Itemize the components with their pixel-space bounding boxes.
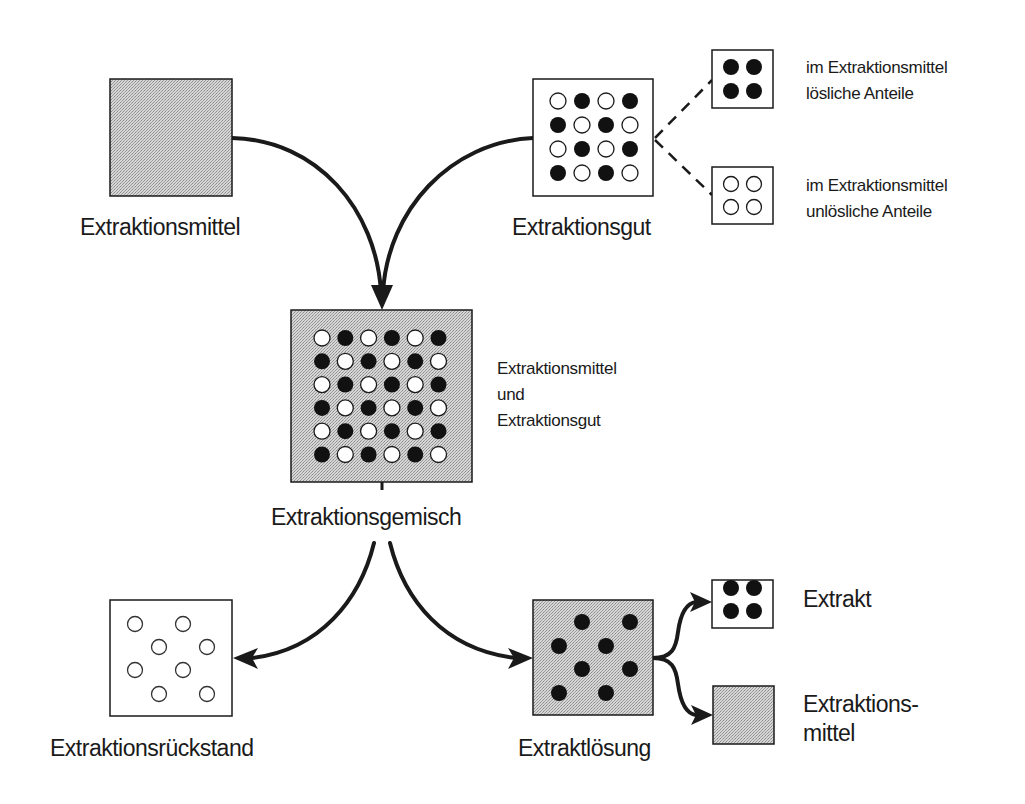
soluble-particle — [407, 400, 423, 416]
insoluble-particle — [361, 330, 377, 346]
insoluble-particle — [384, 447, 400, 463]
soluble-particle — [361, 400, 377, 416]
insoluble-particle — [361, 377, 377, 393]
insoluble-box — [712, 167, 773, 224]
extract-label: Extrakt — [803, 588, 871, 611]
soluble-particle — [574, 141, 590, 157]
insoluble-particle — [431, 447, 447, 463]
insoluble-particle — [337, 447, 353, 463]
arrow-feed-to-mixture — [383, 138, 533, 292]
dashed-line-insoluble — [655, 140, 712, 195]
insoluble-particle — [407, 377, 423, 393]
insoluble-particle — [337, 400, 353, 416]
extract-box — [712, 580, 773, 628]
feed-label: Extraktionsgut — [512, 216, 651, 239]
mixture-note-line3: Extraktionsgut — [497, 408, 617, 434]
insoluble-particle — [598, 141, 614, 157]
arrow-solution-to-solvent — [653, 658, 696, 715]
soluble-particle — [407, 447, 423, 463]
insoluble-particle — [314, 330, 330, 346]
solvent-label: Extraktionsmittel — [80, 216, 240, 239]
arrow-solvent-to-mixture — [232, 138, 381, 292]
solvent-box — [110, 79, 232, 196]
insoluble-particle — [337, 353, 353, 369]
recovered-solvent-box — [713, 686, 774, 744]
soluble-particle — [361, 447, 377, 463]
insoluble-particle — [574, 117, 590, 133]
soluble-particle — [431, 423, 447, 439]
residue-label: Extraktionsrückstand — [50, 737, 253, 760]
mixture-label: Extraktionsgemisch — [271, 506, 461, 529]
soluble-label-line1: im Extraktionsmittel — [806, 55, 947, 81]
insoluble-particle — [314, 423, 330, 439]
insoluble-particle — [384, 400, 400, 416]
arrowhead-down-icon — [371, 285, 393, 310]
insoluble-label: im Extraktionsmittel unlösliche Anteile — [806, 173, 947, 225]
arrow-solution-to-extract — [653, 602, 696, 658]
insoluble-label-line1: im Extraktionsmittel — [806, 173, 947, 199]
insoluble-particle — [622, 117, 638, 133]
soluble-particle — [337, 423, 353, 439]
extract-solution-label: Extraktlösung — [518, 737, 651, 760]
dashed-connectors — [655, 80, 712, 195]
mixture-note-line1: Extraktionsmittel — [497, 356, 617, 382]
insoluble-particle — [550, 141, 566, 157]
soluble-particle — [574, 93, 590, 109]
soluble-particle — [431, 330, 447, 346]
insoluble-particle — [314, 377, 330, 393]
insoluble-particle — [407, 330, 423, 346]
soluble-particle — [622, 141, 638, 157]
soluble-particle — [361, 353, 377, 369]
soluble-particle — [384, 423, 400, 439]
soluble-particle — [598, 165, 614, 181]
soluble-particle — [431, 377, 447, 393]
soluble-particle — [550, 117, 566, 133]
soluble-box — [712, 50, 773, 108]
insoluble-label-line2: unlösliche Anteile — [806, 199, 947, 225]
arrow-mixture-to-extract-solution — [390, 543, 516, 658]
insoluble-particle — [622, 165, 638, 181]
recovered-solvent-line1: Extraktions- — [803, 690, 918, 719]
soluble-particle — [337, 330, 353, 346]
mixture-note-line2: und — [497, 382, 617, 408]
soluble-label-line2: lösliche Anteile — [806, 81, 947, 107]
soluble-particle — [314, 400, 330, 416]
insoluble-particle — [384, 353, 400, 369]
soluble-particle — [407, 353, 423, 369]
soluble-particle — [622, 93, 638, 109]
arrow-mixture-to-residue — [252, 543, 374, 658]
soluble-particle — [550, 165, 566, 181]
mixture-note: Extraktionsmittel und Extraktionsgut — [497, 356, 617, 434]
soluble-particle — [314, 353, 330, 369]
recovered-solvent-line2: mittel — [803, 719, 918, 748]
insoluble-particle — [431, 353, 447, 369]
dashed-line-soluble — [655, 80, 712, 138]
soluble-particle — [598, 117, 614, 133]
insoluble-particle — [598, 93, 614, 109]
soluble-particle — [384, 377, 400, 393]
recovered-solvent-label: Extraktions- mittel — [803, 690, 918, 748]
soluble-particle — [314, 447, 330, 463]
insoluble-particle — [431, 400, 447, 416]
insoluble-particle — [407, 423, 423, 439]
insoluble-particle — [574, 165, 590, 181]
insoluble-particle — [550, 93, 566, 109]
insoluble-particle — [361, 423, 377, 439]
soluble-particle — [337, 377, 353, 393]
soluble-label: im Extraktionsmittel lösliche Anteile — [806, 55, 947, 107]
soluble-particle — [384, 330, 400, 346]
